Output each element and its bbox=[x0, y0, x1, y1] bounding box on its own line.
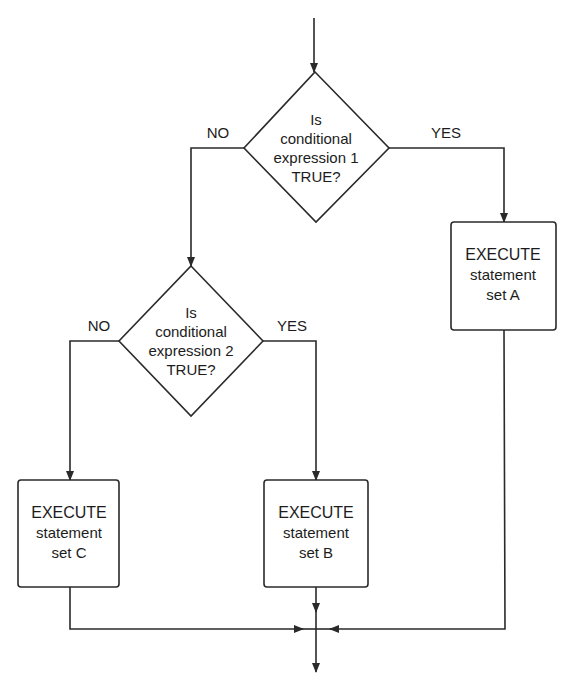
process-b: EXECUTE statement set B bbox=[264, 480, 368, 587]
process-b-line-3: set B bbox=[299, 544, 333, 561]
decision-1: Is conditional expression 1 TRUE? bbox=[244, 72, 389, 222]
process-c-merge-connector bbox=[70, 587, 303, 629]
decision-2-no-connector bbox=[70, 341, 119, 480]
decision-1-yes-label: YES bbox=[431, 124, 461, 141]
decision-2-diamond bbox=[119, 266, 263, 416]
process-a: EXECUTE statement set A bbox=[451, 222, 556, 330]
decision-1-line-4: TRUE? bbox=[291, 168, 340, 185]
process-b-line-1: EXECUTE bbox=[278, 504, 354, 521]
decision-2-yes-label: YES bbox=[277, 317, 307, 334]
process-b-line-2: statement bbox=[283, 524, 350, 541]
decision-2: Is conditional expression 2 TRUE? bbox=[119, 266, 263, 416]
decision-1-line-1: Is bbox=[310, 111, 322, 128]
process-c-line-3: set C bbox=[51, 544, 86, 561]
process-c-line-1: EXECUTE bbox=[31, 504, 107, 521]
process-c-line-2: statement bbox=[36, 524, 103, 541]
decision-2-yes-connector bbox=[263, 341, 316, 480]
decision-1-no-connector bbox=[191, 148, 244, 266]
process-a-line-1: EXECUTE bbox=[465, 246, 541, 263]
decision-2-line-1: Is bbox=[185, 304, 197, 321]
flowchart: Is conditional expression 1 TRUE? NO YES… bbox=[0, 0, 576, 698]
decision-1-line-3: expression 1 bbox=[273, 149, 358, 166]
process-c: EXECUTE statement set C bbox=[18, 480, 119, 587]
process-a-line-2: statement bbox=[470, 266, 537, 283]
decision-2-line-3: expression 2 bbox=[148, 342, 233, 359]
process-a-line-3: set A bbox=[486, 286, 519, 303]
decision-2-line-4: TRUE? bbox=[166, 361, 215, 378]
decision-2-line-2: conditional bbox=[155, 323, 227, 340]
decision-1-diamond bbox=[244, 72, 389, 222]
decision-1-line-2: conditional bbox=[280, 130, 352, 147]
decision-1-yes-connector bbox=[389, 148, 504, 222]
decision-2-no-label: NO bbox=[88, 317, 111, 334]
decision-1-no-label: NO bbox=[207, 124, 230, 141]
